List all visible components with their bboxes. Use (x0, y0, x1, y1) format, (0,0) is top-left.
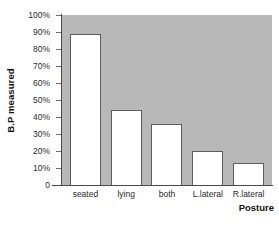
x-axis-tick-label-group: seatedlyingbothL.lateralR.lateral (62, 189, 272, 200)
y-axis-tick-label: 0 (18, 181, 50, 190)
bar-slot (65, 15, 106, 185)
x-axis-line (52, 185, 273, 186)
y-axis-tick-label: 70% (18, 62, 50, 71)
y-axis-tick-label: 40% (18, 113, 50, 122)
bar[interactable] (151, 124, 182, 185)
y-axis-title: B.P measured (2, 14, 18, 186)
bar-chart-figure: B.P measured 100%90%80%70%60%50%40%30%20… (0, 0, 279, 235)
y-axis-tick-label-group: 100%90%80%70%60%50%40%30%20%10%0 (18, 15, 50, 185)
y-axis-tick-label: 20% (18, 147, 50, 156)
y-axis-tick-label: 90% (18, 28, 50, 37)
x-axis-tick-label: R.lateral (228, 189, 269, 200)
bar[interactable] (233, 163, 264, 185)
x-axis-tick-label: both (147, 189, 188, 200)
x-axis-tick-label: lying (106, 189, 147, 200)
bar-slot (187, 15, 228, 185)
y-axis-tick-label: 100% (18, 11, 50, 20)
x-axis-tick-label: seated (65, 189, 106, 200)
y-axis-tick-label: 60% (18, 79, 50, 88)
y-axis-title-text: B.P measured (5, 68, 16, 132)
bar-slot (147, 15, 188, 185)
bar[interactable] (70, 34, 101, 185)
bar[interactable] (192, 151, 223, 185)
bar-series (62, 15, 272, 185)
y-axis-tick-label: 50% (18, 96, 50, 105)
y-axis-tick-label: 30% (18, 130, 50, 139)
bar-slot (106, 15, 147, 185)
y-axis-tick-label: 10% (18, 164, 50, 173)
x-axis-title: Posture (62, 202, 274, 213)
y-axis-tick-label: 80% (18, 45, 50, 54)
bar-slot (228, 15, 269, 185)
bar[interactable] (111, 110, 142, 185)
x-axis-tick-label: L.lateral (187, 189, 228, 200)
